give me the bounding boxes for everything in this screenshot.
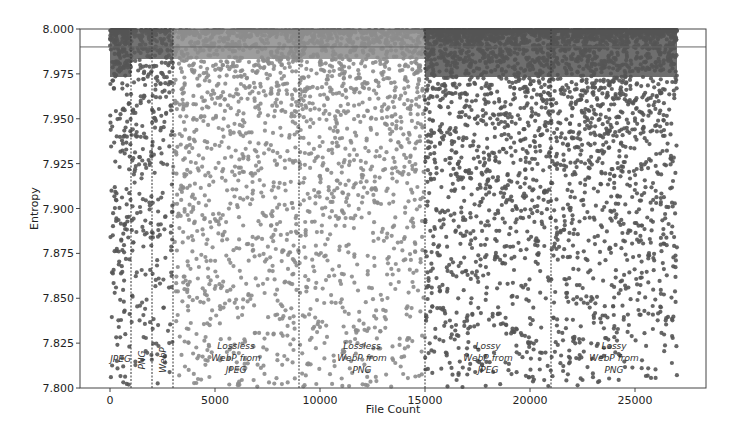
scatter-points: [108, 28, 679, 389]
y-axis-title: Entropy: [28, 187, 41, 230]
y-axis: 7.8007.8257.8507.8757.9007.9257.9507.975…: [43, 23, 81, 395]
y-tick-label: 7.925: [43, 158, 75, 171]
y-tick-label: 7.825: [43, 337, 75, 350]
x-tick-label: 25000: [618, 394, 653, 407]
region-label: PNG: [352, 365, 371, 375]
region-label: WebP from: [589, 353, 639, 363]
x-tick-label: 10000: [303, 394, 338, 407]
region-label: WebP: [158, 347, 168, 373]
region-label: Lossy: [475, 341, 501, 351]
y-tick-label: 7.800: [43, 382, 75, 395]
region-label: Lossless: [343, 341, 381, 351]
x-tick-label: 0: [107, 394, 114, 407]
region-label: Lossy: [601, 341, 627, 351]
region-label: WebP from: [211, 353, 261, 363]
x-tick-label: 20000: [513, 394, 548, 407]
region-label: WebP from: [463, 353, 513, 363]
y-tick-label: 7.875: [43, 247, 75, 260]
y-tick-label: 7.850: [43, 292, 75, 305]
y-tick-label: 7.950: [43, 113, 75, 126]
region-label: PNG: [137, 350, 147, 369]
y-tick-label: 7.975: [43, 68, 75, 81]
region-label: JPEG: [108, 354, 131, 364]
x-axis-title: File Count: [366, 403, 421, 416]
x-tick-label: 5000: [201, 394, 229, 407]
region-label: WebP from: [337, 353, 387, 363]
region-label: JPEG: [224, 365, 247, 375]
region-label: PNG: [604, 365, 623, 375]
region-label: Lossless: [217, 341, 255, 351]
y-tick-label: 8.000: [43, 23, 75, 36]
region-label: JPEG: [476, 365, 499, 375]
y-tick-label: 7.900: [43, 203, 75, 216]
entropy-scatter-chart: 7.8007.8257.8507.8757.9007.9257.9507.975…: [0, 0, 745, 443]
